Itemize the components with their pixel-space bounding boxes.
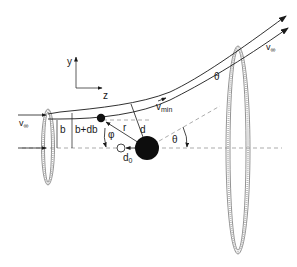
phi-angle-arc [104, 128, 106, 147]
theta-angle-arc [183, 127, 187, 147]
theta-bottom-label: θ [172, 135, 178, 145]
b-db-label: b+db [75, 125, 98, 135]
d0-label: d0 [123, 153, 132, 164]
exit-annulus-ring [226, 46, 250, 254]
v-inf-out-label: v∞ [266, 43, 276, 53]
scattering-diagram [0, 0, 297, 267]
v-inf-in-label: v∞ [19, 119, 29, 129]
z-axis-label: z [103, 91, 108, 101]
d-label: d [140, 125, 146, 135]
v-min-label: vmin [156, 102, 172, 113]
theta-top-label: θ [214, 72, 220, 82]
b-label: b [60, 125, 66, 135]
entry-annulus-ring [42, 109, 55, 185]
particle [97, 114, 105, 122]
scattering-center [135, 136, 159, 160]
coordinate-axes [76, 57, 102, 88]
initial-position-marker [117, 144, 125, 152]
trajectory-outer [48, 16, 286, 114]
y-axis-label: y [67, 57, 72, 67]
r-label: r [123, 123, 126, 133]
phi-label: φ [108, 130, 114, 140]
